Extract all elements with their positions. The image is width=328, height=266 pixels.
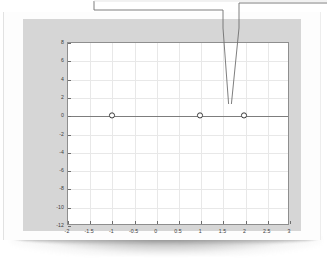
x-tick-label: 2 (243, 228, 246, 234)
y-axis-tick (68, 226, 71, 227)
x-tick-label: 0.5 (174, 228, 182, 234)
curve-plot (68, 43, 288, 224)
root-marker (197, 113, 202, 118)
y-tick-label: -8 (45, 185, 64, 191)
x-tick-label: 0 (154, 228, 157, 234)
x-tick-label: -1 (109, 228, 114, 234)
root-marker (109, 113, 114, 118)
root-markers (109, 113, 246, 118)
y-tick-label: 2 (45, 94, 64, 100)
x-tick-label: 1.5 (219, 228, 227, 234)
y-tick-label: -4 (45, 149, 64, 155)
y-tick-label: -6 (45, 167, 64, 173)
y-tick-label: -12 (45, 222, 64, 228)
root-marker (241, 113, 246, 118)
x-tick-label: -1.5 (85, 228, 94, 234)
x-tick-label: -0.5 (129, 228, 138, 234)
x-axis-tick (290, 221, 291, 224)
y-tick-label: 0 (45, 112, 64, 118)
y-tick-label: -10 (45, 204, 64, 210)
y-tick-label: 6 (45, 57, 64, 63)
x-tick-label: 3 (288, 228, 291, 234)
scanned-page: -2-1.5-1-0.500.511.522.53 -12-10-8-6-4-2… (3, 12, 321, 240)
y-tick-label: 8 (45, 39, 64, 45)
x-tick-label: 1 (199, 228, 202, 234)
y-tick-label: -2 (45, 131, 64, 137)
x-tick-label: -2 (65, 228, 70, 234)
x-tick-label: 2.5 (263, 228, 271, 234)
plot-area (67, 42, 289, 225)
y-tick-label: 4 (45, 76, 64, 82)
matlab-figure: -2-1.5-1-0.500.511.522.53 -12-10-8-6-4-2… (23, 19, 301, 231)
